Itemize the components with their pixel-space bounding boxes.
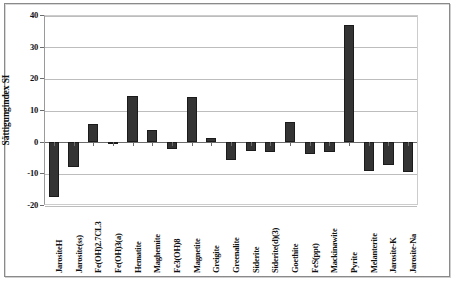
x-axis-tick-mark (54, 142, 55, 146)
x-axis-label-text: Maghemite (152, 234, 162, 273)
bar (49, 142, 59, 197)
x-axis-tick-mark (133, 142, 134, 146)
y-axis-tick-label: 40 (0, 10, 38, 20)
x-axis-label-text: Siderite(d)(3) (270, 228, 280, 273)
x-axis-label-text: JarositeH (54, 240, 64, 273)
bar-slot (221, 15, 241, 205)
y-axis-tick-label: -10 (0, 168, 38, 178)
chart-figure: Sättigungindex SI 403020100-10-20 Jarosi… (0, 0, 457, 282)
y-axis-tick-mark (40, 205, 44, 206)
x-axis-tick-mark (172, 142, 173, 146)
x-axis-tick-mark (93, 142, 94, 146)
x-axis-label-text: Pyrite (349, 252, 359, 273)
x-axis-tick-mark (231, 142, 232, 146)
x-axis-label-text: Greenalite (231, 237, 241, 273)
bar-slot (339, 15, 359, 205)
bar (127, 96, 137, 141)
x-axis-tick-mark (408, 142, 409, 146)
x-axis-tick-mark (113, 142, 114, 146)
x-axis-tick-mark (290, 142, 291, 146)
bar-slot (379, 15, 399, 205)
x-axis-tick-mark (270, 142, 271, 146)
x-axis-tick-mark (251, 142, 252, 146)
x-axis-tick-mark (211, 142, 212, 146)
bar (187, 97, 197, 142)
bar-slot (123, 15, 143, 205)
x-axis-label-text: Fe(OH)2.7CL3 (93, 221, 103, 273)
bar-slot (280, 15, 300, 205)
bar-slot (398, 15, 418, 205)
x-axis-tick-mark (310, 142, 311, 146)
x-axis-tick-mark (74, 142, 75, 146)
x-axis-label-text: Goethite (290, 244, 300, 273)
bar-slot (83, 15, 103, 205)
bar-slot (64, 15, 84, 205)
bars-layer (44, 15, 418, 205)
x-axis-label-text: Melanterite (369, 233, 379, 273)
x-axis-labels: JarositeHJarosite(ss)Fe(OH)2.7CL3Fe(OH)3… (44, 207, 418, 277)
y-axis-tick-label: 30 (0, 42, 38, 52)
x-axis-label-text: Siderite (251, 247, 261, 273)
bar-slot (103, 15, 123, 205)
bar-slot (261, 15, 281, 205)
x-axis-tick-mark (388, 142, 389, 146)
bar-slot (182, 15, 202, 205)
bar (285, 122, 295, 142)
x-axis-tick-mark (192, 142, 193, 146)
x-axis-tick-mark (349, 142, 350, 146)
bar-slot (300, 15, 320, 205)
bar-slot (142, 15, 162, 205)
x-axis-label-text: FeS(ppt) (310, 243, 320, 273)
bar-slot (44, 15, 64, 205)
x-axis-label-text: Magnetite (192, 238, 202, 273)
x-axis-tick-mark (329, 142, 330, 146)
x-axis-tick-mark (152, 142, 153, 146)
bar (88, 124, 98, 142)
y-axis-tick-label: -20 (0, 200, 38, 210)
bar-slot (359, 15, 379, 205)
bar (147, 130, 157, 142)
x-axis-label-text: Mackinawite (329, 229, 339, 273)
bar (364, 142, 374, 171)
bar (344, 25, 354, 142)
bar-slot (162, 15, 182, 205)
bar-slot (320, 15, 340, 205)
bar-slot (201, 15, 221, 205)
x-axis-label-text: Greigite (211, 245, 221, 273)
y-axis-tick-label: 0 (0, 137, 38, 147)
x-axis-tick-mark (369, 142, 370, 146)
x-axis-label-text: Fe(OH)3(a) (113, 233, 123, 273)
x-axis-label-text: Fe3(OH)8 (172, 239, 182, 273)
x-axis-label-text: Jarosite(ss) (74, 235, 84, 273)
x-axis-label-text: Jarosite-K (388, 237, 398, 273)
y-axis-tick-label: 20 (0, 73, 38, 83)
y-axis-tick-label: 10 (0, 105, 38, 115)
bar (403, 142, 413, 172)
x-axis-label-text: Hematite (133, 241, 143, 273)
x-axis-label-text: Jarosite-Na (408, 234, 418, 273)
bar-slot (241, 15, 261, 205)
